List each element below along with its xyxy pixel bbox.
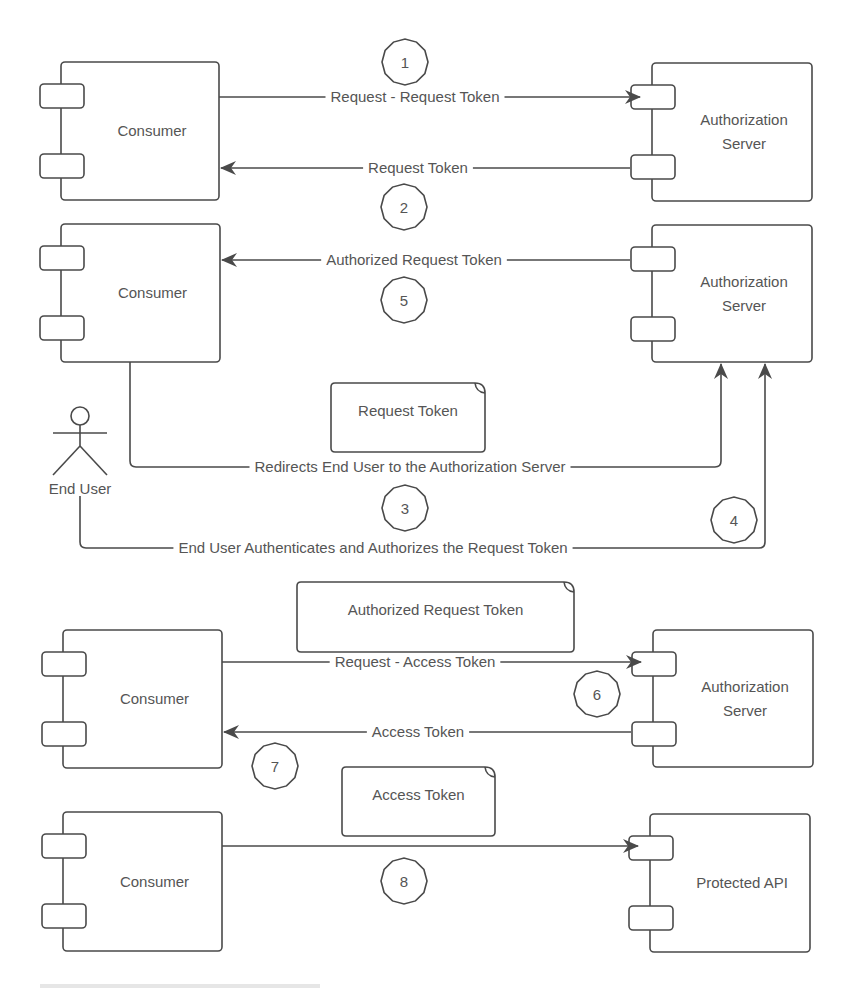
port-top: [40, 246, 84, 270]
port-bottom: [631, 155, 675, 179]
component-consumer-1: Consumer: [40, 62, 219, 200]
end-user-actor: End User: [49, 407, 112, 497]
step-number: 1: [401, 54, 409, 71]
notes: Request TokenAuthorized Request TokenAcc…: [297, 383, 574, 836]
component-label: Authorization: [700, 111, 788, 128]
label-msg-access-token: Access Token: [367, 723, 469, 740]
port-bottom: [42, 722, 86, 746]
port-top: [42, 834, 86, 858]
step-number: 3: [401, 500, 409, 517]
component-label: Server: [722, 297, 766, 314]
component-protected-api: Protected API: [629, 814, 810, 952]
step-number: 4: [730, 512, 738, 529]
note-access-token: Access Token: [342, 767, 495, 836]
label-msg-redirects-end-user: Redirects End User to the Authorization …: [250, 458, 571, 475]
port-bottom: [40, 316, 84, 340]
note-label: Authorized Request Token: [348, 601, 524, 618]
step-number: 6: [593, 686, 601, 703]
note-authorized-request-token: Authorized Request Token: [297, 582, 574, 652]
port-top: [631, 247, 675, 271]
label-msg-end-user-authenticates: End User Authenticates and Authorizes th…: [173, 539, 572, 556]
component-auth-server-1: AuthorizationServer: [631, 63, 812, 201]
step-8-marker: 8: [381, 858, 427, 904]
component-label: Consumer: [118, 284, 187, 301]
oauth-sequence-diagram: ConsumerAuthorizationServerConsumerAutho…: [0, 0, 846, 988]
component-label: Authorization: [701, 678, 789, 695]
port-top: [42, 652, 86, 676]
note-request-token: Request Token: [331, 383, 485, 452]
component-consumer-4: Consumer: [42, 812, 222, 951]
step-3-marker: 3: [382, 485, 428, 531]
port-bottom: [629, 906, 673, 930]
component-consumer-3: Consumer: [42, 630, 222, 768]
step-number: 5: [400, 292, 408, 309]
note-label: Access Token: [372, 786, 464, 803]
step-number: 8: [400, 873, 408, 890]
step-6-marker: 6: [574, 671, 620, 717]
component-label: Server: [723, 702, 767, 719]
actor-head-icon: [71, 407, 89, 425]
port-top: [629, 836, 673, 860]
message-label: End User Authenticates and Authorizes th…: [178, 539, 567, 556]
component-auth-server-3: AuthorizationServer: [632, 630, 813, 767]
port-bottom: [631, 317, 675, 341]
message-label: Access Token: [372, 723, 464, 740]
step-1-marker: 1: [382, 39, 428, 85]
component-label: Consumer: [117, 122, 186, 139]
port-top: [632, 652, 676, 676]
caption-sliver: [40, 984, 320, 988]
component-consumer-2: Consumer: [40, 224, 220, 362]
component-label: Authorization: [700, 273, 788, 290]
component-label: Protected API: [696, 874, 788, 891]
component-label: Consumer: [120, 690, 189, 707]
step-number: 7: [271, 758, 279, 775]
label-msg-request-access-token: Request - Access Token: [330, 653, 501, 670]
step-number: 2: [400, 199, 408, 216]
port-bottom: [40, 154, 84, 178]
port-bottom: [632, 722, 676, 746]
step-7-marker: 7: [252, 743, 298, 789]
message-label: Redirects End User to the Authorization …: [255, 458, 566, 475]
label-msg-request-request-token: Request - Request Token: [326, 88, 505, 105]
component-auth-server-2: AuthorizationServer: [631, 225, 812, 362]
component-label: Consumer: [120, 873, 189, 890]
step-4-marker: 4: [711, 497, 757, 543]
label-msg-authorized-request-token: Authorized Request Token: [321, 251, 507, 268]
message-label: Request - Access Token: [335, 653, 496, 670]
step-2-marker: 2: [381, 184, 427, 230]
message-label: Request Token: [368, 159, 468, 176]
port-top: [40, 84, 84, 108]
actor-label: End User: [49, 480, 112, 497]
label-msg-request-token: Request Token: [363, 159, 473, 176]
note-label: Request Token: [358, 402, 458, 419]
message-label: Request - Request Token: [331, 88, 500, 105]
component-label: Server: [722, 135, 766, 152]
port-bottom: [42, 904, 86, 928]
step-5-marker: 5: [381, 277, 427, 323]
message-label: Authorized Request Token: [326, 251, 502, 268]
